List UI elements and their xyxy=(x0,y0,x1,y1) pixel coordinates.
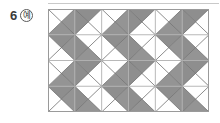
pattern-svg xyxy=(48,9,209,112)
problem-label: 6 예 xyxy=(10,9,33,22)
top-horizontal-rule xyxy=(48,3,219,4)
problem-number: 6 xyxy=(10,9,17,22)
example-badge: 예 xyxy=(20,9,33,22)
triangle-tessellation-pattern xyxy=(48,9,209,112)
figure-root: 6 예 xyxy=(0,0,220,123)
